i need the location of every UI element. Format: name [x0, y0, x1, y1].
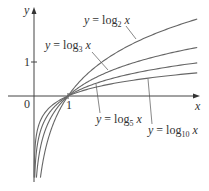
y-tick-label-1: 1 — [24, 56, 30, 68]
leader-log2 — [126, 26, 136, 39]
x-axis-arrow-icon — [193, 94, 200, 99]
plot-area — [0, 0, 209, 191]
legend-log10: y = log10 x — [148, 124, 198, 136]
y-axis-label: y — [24, 4, 29, 16]
leader-log10 — [148, 79, 152, 124]
origin-label: 0 — [24, 98, 30, 110]
x-axis-label: x — [195, 100, 200, 112]
x-tick-label-1: 1 — [66, 99, 72, 111]
y-axis-arrow-icon — [32, 7, 37, 14]
legend-log2: y = log2 x — [84, 14, 130, 26]
legend-log5: y = log5 x — [96, 113, 142, 125]
legend-log3: y = log3 x — [45, 39, 91, 51]
leader-log5 — [96, 84, 100, 113]
